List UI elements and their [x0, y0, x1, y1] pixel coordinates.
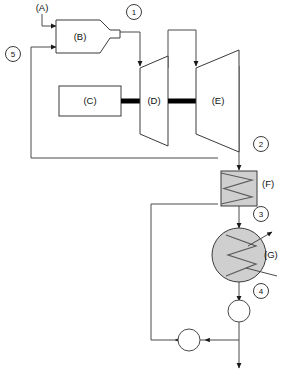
component-label-e: (E): [212, 95, 225, 106]
state-marker-5: 5: [6, 47, 21, 62]
component-label-g: (G): [264, 249, 278, 260]
component-label-f: (F): [262, 178, 274, 189]
stream-inlet-a: [42, 14, 56, 26]
state-marker-4: 4: [254, 284, 269, 299]
svg-text:2: 2: [259, 140, 264, 149]
component-label-d: (D): [147, 95, 160, 106]
svg-text:5: 5: [11, 50, 16, 59]
process-flow-diagram: (B) (C) (D) (E) (F): [0, 0, 292, 386]
stream-reheat-d-to-e: [168, 30, 196, 68]
component-turbine-d[interactable]: (D): [140, 56, 168, 146]
component-combustor-b[interactable]: (B): [56, 20, 120, 53]
component-condenser-g[interactable]: (G): [212, 228, 278, 282]
pump-2[interactable]: [178, 329, 200, 351]
component-heat-exchanger-f[interactable]: (F): [221, 171, 274, 206]
svg-text:4: 4: [259, 287, 264, 296]
schematic-canvas: (B) (C) (D) (E) (F): [0, 0, 292, 386]
state-marker-3: 3: [254, 207, 269, 222]
svg-text:1: 1: [132, 8, 137, 17]
state-marker-1: 1: [127, 5, 142, 20]
svg-text:3: 3: [259, 210, 264, 219]
component-turbine-e[interactable]: (E): [196, 50, 239, 152]
component-block-c[interactable]: (C): [59, 86, 121, 116]
pump-1[interactable]: [228, 300, 250, 322]
component-label-c: (C): [83, 95, 96, 106]
state-marker-2: 2: [254, 137, 269, 152]
stream-label-a: (A): [36, 2, 49, 13]
component-label-b: (B): [74, 31, 87, 42]
stream-pump2-to-exchanger-f: [151, 204, 218, 340]
